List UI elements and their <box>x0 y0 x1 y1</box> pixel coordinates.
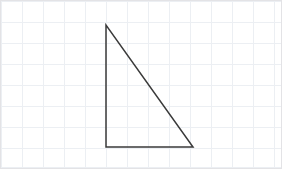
figure-canvas <box>0 0 282 169</box>
triangle-diagram <box>0 0 282 169</box>
canvas-background <box>0 0 282 169</box>
